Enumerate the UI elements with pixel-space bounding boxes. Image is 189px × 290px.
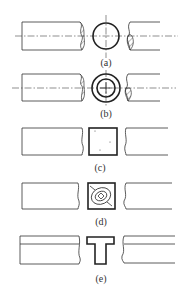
left-tube-outline — [22, 74, 82, 101]
t-section-hatched — [87, 237, 114, 264]
left-t-beam — [20, 236, 80, 264]
right-square-bar — [125, 128, 168, 155]
panel-label-d: (d) — [95, 216, 107, 228]
grain-check — [90, 186, 95, 190]
panel-b: (b) — [12, 70, 176, 120]
square-section-hatched — [89, 128, 117, 155]
panel-label-c: (c) — [94, 162, 105, 174]
panel-e: (e) — [20, 236, 175, 285]
right-t-beam — [122, 236, 175, 263]
right-break-hatch — [125, 88, 131, 101]
right-break-hatch — [127, 35, 133, 51]
right-timber — [124, 183, 172, 209]
grain-pith — [98, 193, 104, 199]
panel-c: (c) — [22, 128, 168, 174]
panel-label-e: (e) — [95, 273, 106, 285]
panel-label-a: (a) — [100, 57, 111, 69]
left-break-hatch — [80, 74, 85, 101]
panel-a: (a) — [15, 15, 178, 69]
panel-d: (d) — [22, 183, 172, 228]
section-views-diagram: (a) (b) (c) (d) (e) — [0, 0, 189, 290]
grain-check — [107, 202, 112, 206]
grain-ring-middle — [94, 189, 109, 202]
panel-label-b: (b) — [100, 108, 112, 120]
left-square-bar — [22, 128, 83, 155]
left-timber — [22, 183, 79, 209]
